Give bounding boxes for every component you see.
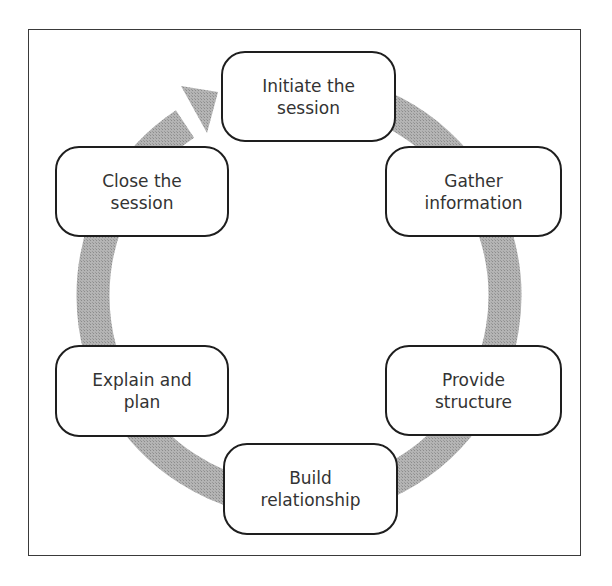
node-close-the-session: Close the session (55, 146, 229, 237)
node-label: Initiate the session (262, 75, 355, 119)
arrowhead-icon (181, 86, 218, 133)
node-label: Explain and plan (92, 369, 192, 413)
node-provide-structure: Provide structure (385, 345, 562, 436)
node-gather-information: Gather information (385, 146, 562, 237)
node-label: Provide structure (435, 369, 512, 413)
node-build-relationship: Build relationship (223, 443, 398, 535)
node-label: Build relationship (261, 467, 361, 511)
node-label: Gather information (424, 170, 522, 214)
node-label: Close the session (102, 170, 182, 214)
node-initiate-the-session: Initiate the session (221, 51, 396, 142)
node-explain-and-plan: Explain and plan (55, 345, 229, 437)
